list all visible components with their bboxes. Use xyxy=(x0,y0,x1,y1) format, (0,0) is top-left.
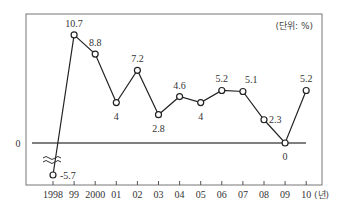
data-point-marker xyxy=(240,88,246,94)
x-tick-label: 04 xyxy=(175,189,185,200)
x-axis-labels: 199899200001020304050607080910 xyxy=(43,189,311,200)
series-line xyxy=(53,35,306,175)
chart-frame xyxy=(26,14,322,185)
x-tick-label: 01 xyxy=(111,189,121,200)
x-tick-label: 2000 xyxy=(85,189,105,200)
data-point-marker xyxy=(92,51,98,57)
data-value-label: 7.2 xyxy=(131,53,144,64)
data-value-label: 8.8 xyxy=(89,37,102,48)
data-point-marker xyxy=(156,112,162,118)
data-point-marker xyxy=(198,100,204,106)
data-value-label: 4.6 xyxy=(173,80,186,91)
data-value-labels: -5.710.78.847.22.84.645.25.12.305.2 xyxy=(60,18,312,181)
axis-break-icon xyxy=(43,157,61,164)
x-tick-label: 99 xyxy=(69,189,79,200)
x-tick-label: 1998 xyxy=(43,189,63,200)
data-point-marker xyxy=(113,100,119,106)
data-markers xyxy=(50,32,309,178)
x-axis-ticks xyxy=(53,181,306,185)
data-value-label: 10.7 xyxy=(65,18,83,29)
x-tick-label: 05 xyxy=(196,189,206,200)
unit-label: (단위: %) xyxy=(276,21,313,31)
x-tick-label: 03 xyxy=(154,189,164,200)
x-tick-label: 08 xyxy=(259,189,269,200)
data-value-label: 2.8 xyxy=(152,123,165,134)
x-tick-label: 02 xyxy=(132,189,142,200)
line-chart: 0 (단위: %) 199899200001020304050607080910… xyxy=(0,0,352,209)
data-value-label: 4 xyxy=(198,111,203,122)
data-value-label: 5.2 xyxy=(300,73,313,84)
zero-axis-label: 0 xyxy=(16,138,21,149)
data-value-label: 5.2 xyxy=(216,73,229,84)
data-point-marker xyxy=(71,32,77,38)
data-value-label: 5.1 xyxy=(245,74,258,85)
data-point-marker xyxy=(177,94,183,100)
data-point-marker xyxy=(282,140,288,146)
data-value-label: 4 xyxy=(114,111,119,122)
x-tick-label: 06 xyxy=(217,189,227,200)
x-unit-label: (년) xyxy=(314,190,329,200)
data-point-marker xyxy=(261,117,267,123)
data-point-marker xyxy=(134,67,140,73)
x-tick-label: 10 xyxy=(301,189,311,200)
data-point-marker xyxy=(50,172,56,178)
data-value-label: -5.7 xyxy=(60,170,76,181)
data-value-label: 0 xyxy=(283,151,288,162)
data-point-marker xyxy=(219,87,225,93)
x-tick-label: 09 xyxy=(280,189,290,200)
data-value-label: 2.3 xyxy=(269,114,282,125)
x-tick-label: 07 xyxy=(238,189,248,200)
data-point-marker xyxy=(303,87,309,93)
